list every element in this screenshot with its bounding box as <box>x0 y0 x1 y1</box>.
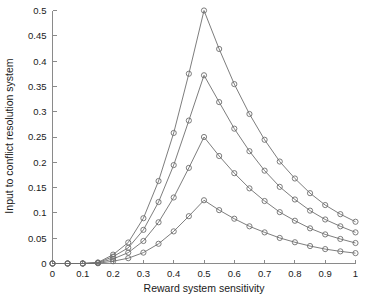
y-tick-label: 0.15 <box>28 182 47 193</box>
x-tick-label: 0.6 <box>228 268 241 279</box>
line-chart-canvas: 00.050.10.150.20.250.30.350.40.450.5 00.… <box>0 0 367 299</box>
data-series-group <box>50 8 358 266</box>
x-tick-label: 0.2 <box>106 268 119 279</box>
y-axis-title: Input to conflict resolution system <box>3 58 15 213</box>
x-tick-label: 0 <box>50 268 55 279</box>
x-tick-label: 0.7 <box>258 268 271 279</box>
series-line <box>53 75 356 263</box>
series-line <box>53 200 356 263</box>
x-tick-label: 1 <box>353 268 358 279</box>
x-tick-label: 0.5 <box>197 268 210 279</box>
y-tick-label: 0.3 <box>33 106 46 117</box>
y-tick-label: 0.05 <box>28 233 47 244</box>
y-tick-label: 0.2 <box>33 157 46 168</box>
chart-figure: 00.050.10.150.20.250.30.350.40.450.5 00.… <box>0 0 367 299</box>
y-tick-label: 0.25 <box>28 131 47 142</box>
x-tick-label: 0.1 <box>76 268 89 279</box>
x-axis-title: Reward system sensitivity <box>144 282 266 294</box>
y-tick-label: 0 <box>41 258 46 269</box>
y-tick-label: 0.35 <box>28 81 47 92</box>
x-tick-label: 0.9 <box>319 268 332 279</box>
y-tick-label: 0.4 <box>33 56 46 67</box>
y-tick-label: 0.5 <box>33 5 46 16</box>
x-tick-label: 0.8 <box>288 268 301 279</box>
series-curve-2 <box>50 73 358 266</box>
y-tick-label: 0.45 <box>28 30 47 41</box>
series-curve-4 <box>50 198 358 266</box>
y-tick-label: 0.1 <box>33 207 46 218</box>
x-tick-label: 0.3 <box>137 268 150 279</box>
x-tick-label: 0.4 <box>167 268 180 279</box>
